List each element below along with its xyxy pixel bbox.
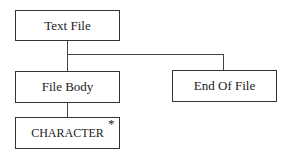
node-label: File Body: [42, 79, 94, 95]
node-end-of-file: End Of File: [172, 70, 277, 102]
connector: [223, 54, 224, 70]
node-label: CHARACTER: [31, 126, 104, 141]
connector: [67, 103, 68, 117]
connector: [67, 54, 224, 55]
node-label: End Of File: [194, 78, 255, 94]
connector: [67, 41, 68, 71]
node-file-body: File Body: [15, 71, 120, 103]
node-label: Text File: [44, 18, 90, 34]
node-text-file: Text File: [15, 10, 120, 41]
node-character: CHARACTER: [15, 117, 120, 149]
iteration-marker: *: [108, 116, 115, 132]
